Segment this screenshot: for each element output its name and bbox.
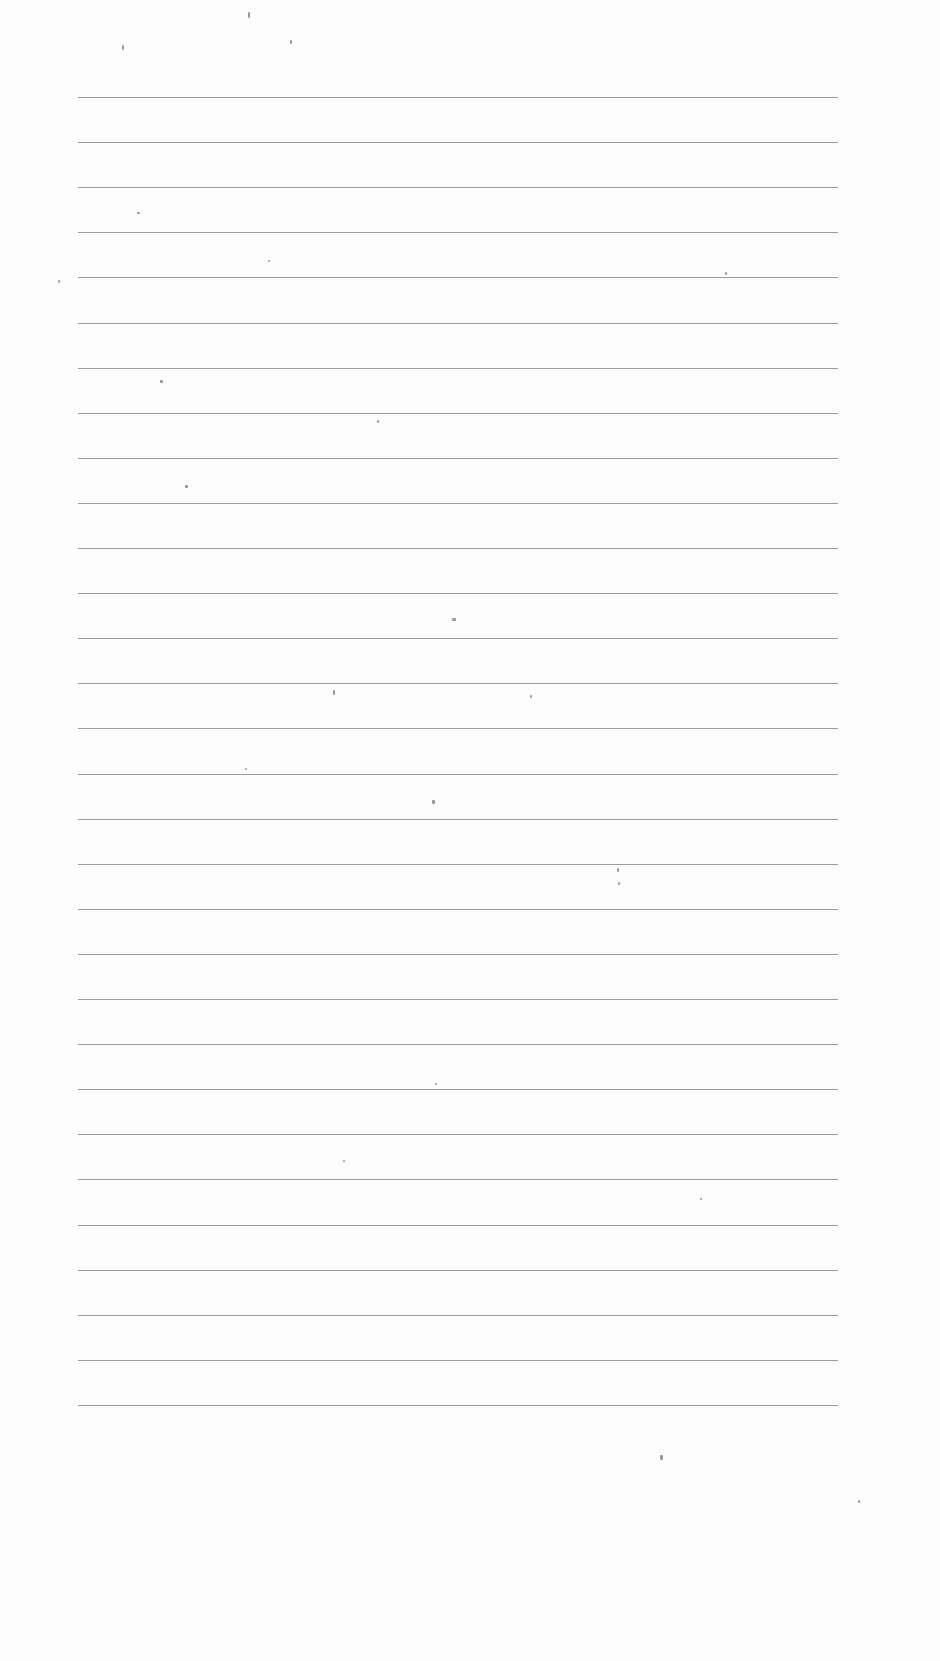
paper-speck <box>618 882 620 885</box>
paper-speck <box>617 868 619 872</box>
ruled-line <box>78 142 838 143</box>
paper-speck <box>343 1160 345 1162</box>
ruled-line <box>78 819 838 820</box>
ruled-line <box>78 458 838 459</box>
paper-speck <box>700 1198 702 1200</box>
ruled-line <box>78 1405 838 1406</box>
paper-speck <box>530 695 532 698</box>
ruled-line <box>78 187 838 188</box>
ruled-line <box>78 638 838 639</box>
lined-paper-page <box>0 0 940 1661</box>
paper-speck <box>452 618 456 621</box>
paper-speck <box>660 1455 663 1460</box>
paper-speck <box>185 485 188 488</box>
ruled-line <box>78 323 838 324</box>
ruled-line <box>78 413 838 414</box>
paper-speck <box>58 280 60 283</box>
ruled-line <box>78 683 838 684</box>
ruled-line <box>78 1315 838 1316</box>
ruled-line <box>78 548 838 549</box>
paper-speck <box>160 380 163 383</box>
paper-speck <box>245 768 247 770</box>
ruled-line <box>78 1360 838 1361</box>
paper-speck <box>268 260 270 262</box>
paper-speck <box>290 40 292 44</box>
paper-speck <box>858 1500 860 1503</box>
ruled-line <box>78 277 838 278</box>
paper-speck <box>122 45 124 50</box>
ruled-line <box>78 1179 838 1180</box>
ruled-line <box>78 1225 838 1226</box>
paper-speck <box>432 800 435 804</box>
ruled-line <box>78 503 838 504</box>
paper-speck <box>725 272 727 275</box>
ruled-line <box>78 954 838 955</box>
ruled-line <box>78 1134 838 1135</box>
ruled-line <box>78 593 838 594</box>
ruled-line <box>78 728 838 729</box>
ruled-line <box>78 909 838 910</box>
paper-speck <box>137 212 140 214</box>
ruled-line <box>78 97 838 98</box>
ruled-line <box>78 864 838 865</box>
ruled-line <box>78 368 838 369</box>
ruled-line <box>78 1089 838 1090</box>
ruled-line <box>78 232 838 233</box>
paper-speck <box>435 1083 437 1085</box>
ruled-line <box>78 1044 838 1045</box>
paper-speck <box>377 420 379 423</box>
ruled-line <box>78 774 838 775</box>
paper-speck <box>333 690 335 695</box>
ruled-line <box>78 999 838 1000</box>
paper-speck <box>248 12 250 18</box>
ruled-line <box>78 1270 838 1271</box>
